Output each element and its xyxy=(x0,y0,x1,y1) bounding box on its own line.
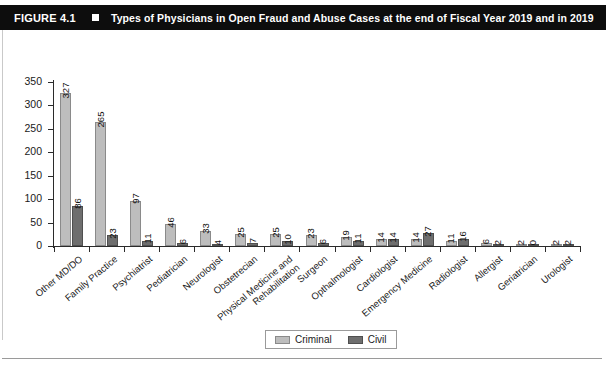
x-axis-tick xyxy=(510,247,511,252)
bar-value-label: 23 xyxy=(302,228,312,239)
bar-value-label: 2 xyxy=(547,239,557,244)
bar-value-label: 27 xyxy=(419,226,429,237)
y-axis-tick-label: 100 xyxy=(0,192,42,204)
bar-civil: 4 xyxy=(212,244,223,246)
bar-value-label: 97 xyxy=(126,193,136,204)
bar-value-label: 19 xyxy=(337,230,347,241)
bar-civil: 23 xyxy=(107,235,118,246)
bar-criminal: 327 xyxy=(60,93,71,246)
legend-item-civil[interactable]: Civil xyxy=(348,334,387,345)
bar-chart: 050100150200250300350 327862652397114663… xyxy=(0,30,606,345)
bar-value-label: 10 xyxy=(278,234,288,245)
bar-value-label: 16 xyxy=(454,231,464,242)
bar-civil: 6 xyxy=(318,243,329,246)
bar-civil: 11 xyxy=(142,241,153,246)
plot-area: 3278626523971146633425725102361911141414… xyxy=(54,82,580,246)
bar-value-label: 0 xyxy=(524,239,534,244)
x-axis-tick xyxy=(475,247,476,252)
figure-bottom-rule xyxy=(2,358,602,359)
bar-value-label: 11 xyxy=(442,234,452,244)
bar-value-label: 11 xyxy=(138,234,148,244)
x-axis-tick xyxy=(440,247,441,252)
x-axis-tick xyxy=(580,247,581,252)
x-axis-tick xyxy=(89,247,90,252)
bar-value-label: 4 xyxy=(208,239,218,244)
bar-civil: 2 xyxy=(563,244,574,246)
x-axis-tick xyxy=(264,247,265,252)
x-axis-tick xyxy=(299,247,300,252)
bar-value-label: 23 xyxy=(103,228,113,239)
bar-value-label: 6 xyxy=(173,239,183,244)
x-axis-tick xyxy=(54,247,55,252)
bar-civil: 11 xyxy=(353,241,364,246)
bar-value-label: 86 xyxy=(68,198,78,209)
x-axis-tick xyxy=(405,247,406,252)
bar-civil: 6 xyxy=(177,243,188,246)
x-axis-tick xyxy=(229,247,230,252)
legend-label: Criminal xyxy=(295,334,332,345)
bar-value-label: 6 xyxy=(314,239,324,244)
bar-criminal: 14 xyxy=(411,239,422,246)
y-axis-tick-label: 200 xyxy=(0,145,42,157)
bar-value-label: 2 xyxy=(512,239,522,244)
bar-civil: 2 xyxy=(493,244,504,246)
x-axis-tick xyxy=(194,247,195,252)
square-bullet-icon xyxy=(92,14,99,21)
x-axis-tick xyxy=(124,247,125,252)
x-axis-tick xyxy=(159,247,160,252)
figure-title: Types of Physicians in Open Fraud and Ab… xyxy=(111,12,594,24)
x-axis-tick xyxy=(545,247,546,252)
y-axis-tick-label: 0 xyxy=(0,239,42,251)
bar-value-label: 7 xyxy=(243,238,253,243)
bar-value-label: 33 xyxy=(196,223,206,234)
y-axis-tick-label: 250 xyxy=(0,122,42,134)
figure-number: FIGURE 4.1 xyxy=(14,12,76,24)
x-axis-tick xyxy=(335,247,336,252)
x-axis-line xyxy=(53,246,581,247)
bar-civil: 27 xyxy=(423,233,434,246)
bar-value-label: 46 xyxy=(161,217,171,228)
bar-value-label: 2 xyxy=(489,239,499,244)
y-axis-tick-label: 350 xyxy=(0,75,42,87)
bar-value-label: 2 xyxy=(559,239,569,244)
bar-value-label: 6 xyxy=(477,239,487,244)
bar-civil: 0 xyxy=(528,244,539,246)
bar-value-label: 14 xyxy=(384,232,394,243)
legend-item-criminal[interactable]: Criminal xyxy=(275,334,332,345)
x-axis-tick xyxy=(370,247,371,252)
bar-value-label: 14 xyxy=(407,232,417,243)
bar-civil: 16 xyxy=(458,239,469,246)
bar-value-label: 327 xyxy=(56,83,66,99)
bar-value-label: 14 xyxy=(372,232,382,243)
chart-legend: CriminalCivil xyxy=(265,330,397,349)
bar-value-label: 265 xyxy=(91,112,101,128)
bar-civil: 14 xyxy=(388,239,399,246)
bar-value-label: 11 xyxy=(349,234,359,244)
bar-value-label: 25 xyxy=(231,227,241,238)
legend-swatch-icon xyxy=(348,336,363,344)
y-axis-tick-label: 150 xyxy=(0,169,42,181)
figure-header-bar: FIGURE 4.1 Types of Physicians in Open F… xyxy=(0,5,606,30)
bar-civil: 7 xyxy=(247,243,258,246)
bar-value-label: 25 xyxy=(266,227,276,238)
legend-label: Civil xyxy=(368,334,387,345)
bar-civil: 86 xyxy=(72,206,83,246)
y-axis-tick-label: 300 xyxy=(0,98,42,110)
y-axis-tick-label: 50 xyxy=(0,216,42,228)
legend-swatch-icon xyxy=(275,336,290,344)
bar-civil: 10 xyxy=(282,241,293,246)
